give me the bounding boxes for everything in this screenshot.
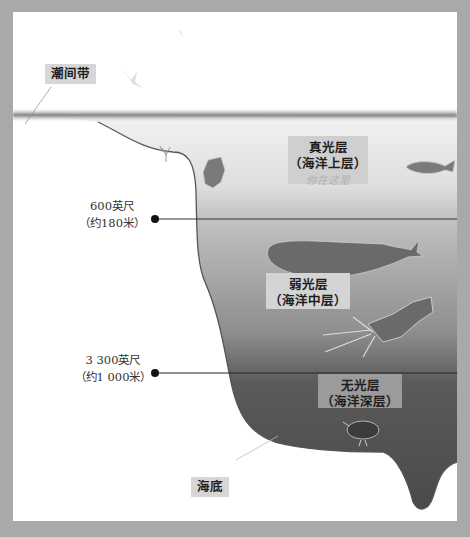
bird-icon <box>121 67 143 88</box>
depth-metric: （约1 000米） <box>71 369 155 386</box>
depth-metric: （约180米） <box>75 215 149 232</box>
depth-imperial: 3 300英尺 <box>71 352 155 369</box>
you-are-here-note: 你在这里 <box>288 172 368 188</box>
zone-name: 真光层 <box>288 140 368 156</box>
callout-seafloor: 海底 <box>191 477 229 497</box>
zone-subname: （海洋深层） <box>318 394 402 410</box>
zone-label-mesopelagic: 弱光层 （海洋中层） <box>266 273 350 309</box>
zone-label-bathypelagic: 无光层 （海洋深层） <box>318 374 402 408</box>
depth-imperial: 600英尺 <box>75 198 149 215</box>
ocean-zones-diagram: 潮间带 真光层 （海洋上层） 你在这里 弱光层 （海洋中层） 无光层 （海洋深层… <box>13 12 457 521</box>
depth-marker-dot <box>151 215 159 223</box>
zone-label-epipelagic: 真光层 （海洋上层） 你在这里 <box>288 136 368 184</box>
zone-name: 无光层 <box>318 378 402 394</box>
callout-intertidal: 潮间带 <box>45 64 96 84</box>
bird-icon-small <box>178 30 183 37</box>
zone-subname: （海洋上层） <box>288 156 368 172</box>
depth-marker-180m: 600英尺 （约180米） <box>75 198 149 232</box>
depth-marker-1000m: 3 300英尺 （约1 000米） <box>71 352 155 386</box>
zone-subname: （海洋中层） <box>266 293 350 309</box>
zone-name: 弱光层 <box>266 277 350 293</box>
ocean-illustration <box>13 12 457 521</box>
